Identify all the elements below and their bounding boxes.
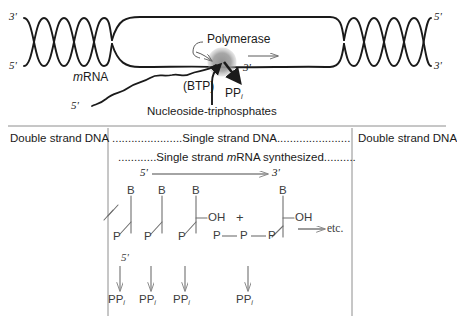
dots-left-mrna: ............ bbox=[118, 151, 156, 163]
label-right-5-prime: 5' bbox=[434, 11, 442, 22]
label-right-3-prime: 3' bbox=[434, 60, 442, 71]
ppi-2-subscript: i bbox=[154, 299, 156, 307]
btp-label: (BTP) bbox=[183, 80, 214, 92]
backbone-phosphate-2: P bbox=[144, 231, 152, 243]
mrna-label-italic-m: m bbox=[73, 70, 83, 84]
triphosphate-alpha: P bbox=[213, 230, 221, 242]
dots-left-dna: ...................... bbox=[112, 132, 182, 144]
synthesis-five-prime: 5' bbox=[140, 167, 148, 178]
backbone-phosphate-1: P bbox=[113, 231, 121, 243]
polymerase-label: Polymerase bbox=[207, 33, 270, 45]
single-strand-dna-text: Single strand DNA bbox=[182, 132, 277, 144]
ppi-subscript: i bbox=[241, 92, 243, 101]
pyrophosphate-label-3: PPi bbox=[173, 294, 190, 307]
ppi-text: PP bbox=[225, 86, 241, 100]
region-label-right: Double strand DNA bbox=[358, 133, 457, 145]
single-strand-mrna-suffix: RNA synthesized bbox=[236, 151, 324, 163]
dots-right-mrna: .......... bbox=[324, 151, 356, 163]
nascent-three-prime-label: 3' bbox=[243, 62, 251, 73]
backbone-phosphate-3: P bbox=[178, 231, 186, 243]
pyrophosphate-label-1: PPi bbox=[108, 294, 125, 307]
chain-five-prime-label: 5' bbox=[121, 252, 129, 263]
ppi-1-text: PP bbox=[108, 293, 123, 305]
mrna-five-prime-label: 5' bbox=[71, 100, 79, 111]
base-label-2: B bbox=[158, 185, 166, 197]
plus-sign: + bbox=[236, 211, 244, 224]
ppi-label-top: PPi bbox=[225, 87, 243, 100]
row-single-strand-dna: ......................Single strand DNA.… bbox=[112, 133, 350, 145]
ppi-4-text: PP bbox=[236, 293, 251, 305]
synthesis-three-prime: 3' bbox=[272, 167, 280, 178]
ppi-release-arrows-bottom bbox=[120, 266, 248, 291]
triphosphate-gamma: P bbox=[268, 230, 276, 242]
hydroxyl-label-1: OH bbox=[208, 212, 225, 224]
region-label-left: Double strand DNA bbox=[10, 133, 109, 145]
base-label-3: B bbox=[192, 185, 200, 197]
single-strand-mrna-italic-m: m bbox=[227, 151, 237, 163]
hydroxyl-label-2: OH bbox=[295, 212, 312, 224]
dna-helix-right bbox=[344, 18, 431, 66]
ppi-3-subscript: i bbox=[188, 299, 190, 307]
etc-label: etc. bbox=[327, 223, 343, 235]
ppi-2-text: PP bbox=[139, 293, 154, 305]
single-strand-mrna-prefix: Single strand bbox=[156, 151, 226, 163]
label-left-5-prime: 5' bbox=[9, 60, 17, 71]
ppi-3-text: PP bbox=[173, 293, 188, 305]
ppi-4-subscript: i bbox=[251, 299, 253, 307]
pyrophosphate-label-2: PPi bbox=[139, 294, 156, 307]
triphosphate-beta: P bbox=[240, 230, 248, 242]
ppi-1-subscript: i bbox=[123, 299, 125, 307]
label-left-3-prime: 3' bbox=[9, 11, 17, 22]
pyrophosphate-label-4: PPi bbox=[236, 294, 253, 307]
nucleoside-triphosphates-label: Nucleoside-triphosphates bbox=[147, 106, 277, 118]
row-single-strand-mrna: ............Single strand mRNA synthesiz… bbox=[118, 152, 356, 164]
dna-helix-left bbox=[24, 18, 112, 66]
mrna-label-rest: RNA bbox=[83, 70, 108, 84]
rna-backbone-skeleton bbox=[104, 196, 294, 237]
base-label-4: B bbox=[279, 185, 287, 197]
dots-right-dna: ....................... bbox=[277, 132, 351, 144]
polymerase-leader-line bbox=[193, 42, 203, 58]
mrna-label: mRNA bbox=[73, 71, 108, 83]
base-label-1: B bbox=[127, 185, 135, 197]
